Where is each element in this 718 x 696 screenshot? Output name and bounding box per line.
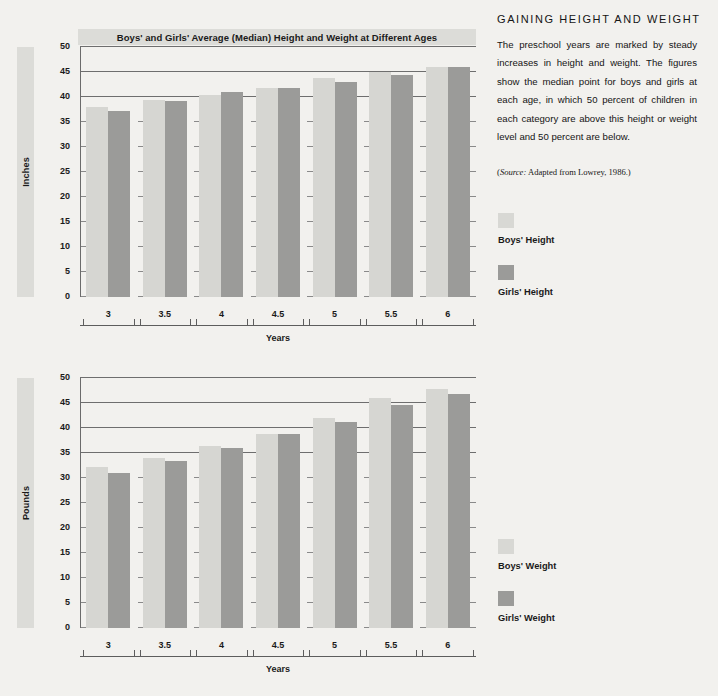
legend-swatch-boys-weight [498, 539, 514, 554]
height-chart-y-axis-title: Inches [21, 157, 31, 187]
bar-weight-3-girls [108, 473, 130, 629]
bar-height-5.5-boys [369, 72, 391, 297]
x-axis-tick [196, 319, 197, 326]
weight-chart-plot [80, 378, 476, 628]
bar-weight-4-girls [221, 448, 243, 628]
bar-weight-5-girls [335, 422, 357, 629]
bar-height-3-girls [108, 111, 130, 297]
x-axis-tick [303, 319, 304, 326]
y-tick-label: 30 [44, 141, 70, 151]
x-tick-label: 4.5 [250, 640, 307, 650]
bar-height-6-boys [426, 67, 448, 297]
bar-height-6-girls [448, 67, 470, 297]
x-tick-label: 4 [193, 640, 250, 650]
y-tick-mark [470, 577, 476, 578]
y-tick-label: 0 [44, 291, 70, 301]
sidebar-body: The preschool years are marked by steady… [497, 36, 697, 146]
bar-height-5.5-girls [391, 75, 413, 298]
x-axis-tick [253, 319, 254, 326]
y-tick-label: 15 [44, 547, 70, 557]
x-axis-tick [140, 319, 141, 326]
bar-height-5-boys [313, 78, 335, 297]
legend-swatch-boys-height [498, 213, 514, 228]
y-tick-mark [470, 271, 476, 272]
x-axis-tick [366, 650, 367, 657]
height-chart-title: Boys' and Girls' Average (Median) Height… [117, 32, 437, 43]
x-axis-tick [360, 319, 361, 326]
x-axis-tick [134, 319, 135, 326]
y-tick-mark [470, 246, 476, 247]
x-axis-tick [303, 650, 304, 657]
bar-weight-5-boys [313, 418, 335, 628]
gridline [80, 402, 476, 403]
legend-label-girls-height: Girls' Height [498, 287, 553, 297]
y-tick-label: 20 [44, 191, 70, 201]
x-axis-tick [253, 650, 254, 657]
bar-weight-5.5-boys [369, 398, 391, 628]
y-tick-mark [470, 627, 476, 628]
x-axis-tick [247, 319, 248, 326]
weight-chart-y-axis-title: Pounds [21, 486, 31, 520]
gridline [80, 427, 476, 428]
x-axis-tick [416, 650, 417, 657]
y-tick-label: 25 [44, 166, 70, 176]
x-axis-title: Years [80, 664, 476, 674]
y-tick-label: 50 [44, 372, 70, 382]
legend-item-boys-weight: Boys' Weight [498, 539, 556, 571]
bar-weight-3.5-boys [143, 458, 165, 629]
legend-label-boys-height: Boys' Height [498, 235, 554, 245]
gridline [80, 377, 476, 378]
y-tick-label: 15 [44, 216, 70, 226]
x-tick-label: 3.5 [137, 640, 194, 650]
x-axis-tick [309, 319, 310, 326]
y-tick-label: 5 [44, 266, 70, 276]
y-tick-label: 10 [44, 572, 70, 582]
bar-height-3.5-boys [143, 100, 165, 298]
sidebar-source: (Source: Adapted from Lowrey, 1986.) [497, 167, 697, 177]
bar-weight-5.5-girls [391, 405, 413, 628]
y-tick-mark [470, 552, 476, 553]
x-axis-tick [360, 650, 361, 657]
x-tick-label: 4.5 [250, 309, 307, 319]
sidebar-heading: GAINING HEIGHT AND WEIGHT [497, 13, 701, 25]
legend-swatch-girls-height [498, 265, 514, 280]
figure-page: Inches Boys' and Girls' Average (Median)… [0, 0, 718, 696]
y-tick-label: 35 [44, 447, 70, 457]
y-tick-label: 45 [44, 397, 70, 407]
y-tick-mark [470, 221, 476, 222]
bar-height-4-boys [199, 95, 221, 298]
x-axis-tick [422, 650, 423, 657]
y-axis-line [80, 47, 81, 297]
x-axis-title: Years [80, 333, 476, 343]
x-axis-tick [247, 650, 248, 657]
x-tick-label: 6 [419, 640, 476, 650]
y-tick-label: 45 [44, 66, 70, 76]
y-tick-mark [470, 196, 476, 197]
x-tick-label: 3 [80, 309, 137, 319]
y-tick-mark [470, 527, 476, 528]
y-tick-mark [470, 477, 476, 478]
legend-item-boys-height: Boys' Height [498, 213, 554, 245]
height-chart-plot [80, 47, 476, 297]
x-tick-label: 3.5 [137, 309, 194, 319]
y-tick-label: 5 [44, 597, 70, 607]
legend-label-girls-weight: Girls' Weight [498, 613, 555, 623]
legend-label-boys-weight: Boys' Weight [498, 561, 556, 571]
bar-weight-4.5-girls [278, 434, 300, 628]
x-axis-tick [134, 650, 135, 657]
x-tick-label: 3 [80, 640, 137, 650]
x-tick-label: 6 [419, 309, 476, 319]
x-tick-label: 4 [193, 309, 250, 319]
x-tick-label: 5.5 [363, 309, 420, 319]
y-tick-mark [470, 502, 476, 503]
legend-item-girls-height: Girls' Height [498, 265, 553, 297]
gridline [80, 46, 476, 47]
y-tick-label: 0 [44, 622, 70, 632]
x-tick-label: 5.5 [363, 640, 420, 650]
y-tick-label: 20 [44, 522, 70, 532]
x-axis-tick [140, 650, 141, 657]
x-axis-tick [83, 650, 84, 657]
legend-swatch-girls-weight [498, 591, 514, 606]
source-label: Source: [500, 167, 526, 177]
x-axis-tick [366, 319, 367, 326]
